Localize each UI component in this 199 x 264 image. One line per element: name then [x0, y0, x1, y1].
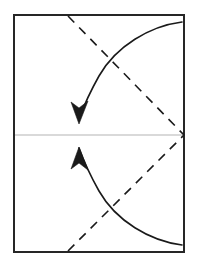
fold-diagram-figure: [0, 0, 199, 264]
fold-diagram-canvas: [0, 0, 199, 264]
paper-sheet: [14, 15, 184, 252]
